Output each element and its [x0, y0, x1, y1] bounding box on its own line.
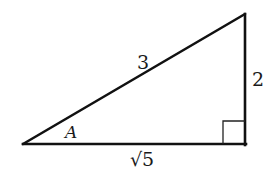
opposite-side-label: 2	[252, 68, 264, 90]
angle-a-label: A	[63, 122, 77, 142]
triangle-svg: 3 2 √5 A	[0, 0, 276, 175]
hypotenuse-line	[23, 14, 245, 144]
triangle-diagram: 3 2 √5 A	[0, 0, 276, 175]
right-angle-marker-icon	[223, 121, 245, 144]
hypotenuse-label: 3	[137, 51, 149, 73]
adjacent-side-label: √5	[130, 148, 154, 170]
